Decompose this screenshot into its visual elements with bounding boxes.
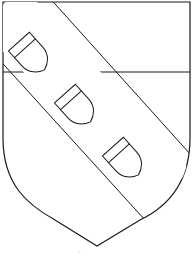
caption: '' <box>78 250 81 256</box>
shield-drawing <box>0 0 193 258</box>
